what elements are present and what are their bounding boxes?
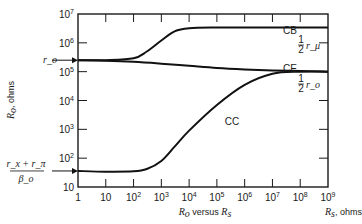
rx-rpi-over-beta-numerator: r_x + r_π [7,158,47,169]
half-r-o-den: 2 [298,83,304,94]
half-r-o-var: r_o [306,79,320,90]
x-tick-label: 108 [293,191,308,203]
y-axis-title: Ro, ohms [5,80,18,120]
x-axis-unit-label: Rs, ohms [324,206,362,219]
x-tick-label: 107 [265,191,280,203]
x-tick-label: 106 [237,191,252,203]
curve-label-cc: CC [225,116,239,127]
x-axis-ticks: 110102103104105106107108109 [75,14,335,203]
annotations: CBCECCr_or_x + r_πβ_o12r_μ12r_oRo versus… [5,25,362,219]
r-o-arrow-head [72,57,78,63]
plot-frame [78,14,328,187]
x-tick-label: 109 [320,191,335,203]
chart: 110102103104105106107108109 101021031041… [0,0,362,224]
y-tick-label: 102 [59,152,74,164]
series-cc-line [78,72,328,172]
y-tick-label: 103 [59,123,74,135]
y-tick-label: 10 [63,182,75,193]
x-tick-label: 10 [100,192,112,203]
y-tick-label: 105 [59,66,74,78]
half-r-mu-den: 2 [298,44,304,55]
curve-label-cb: CB [283,25,297,36]
x-tick-label: 103 [154,191,169,203]
y-tick-label: 106 [59,37,74,49]
rx-rpi-over-beta-arrow-head [72,168,78,174]
x-tick-label: 105 [209,191,224,203]
y-tick-label: 104 [59,95,74,107]
series-group [78,27,328,171]
axes [78,14,328,187]
x-tick-label: 102 [126,191,141,203]
curve-label-ce: CE [283,63,297,74]
rx-rpi-over-beta-denominator: β_o [18,173,34,184]
half-r-mu-var: r_μ [306,40,320,51]
r-o-label: r_o [43,54,57,65]
x-axis-title: Ro versus Rs [178,206,232,219]
x-tick-label: 1 [75,192,81,203]
x-tick-label: 104 [182,191,197,203]
y-tick-label: 107 [59,8,74,20]
